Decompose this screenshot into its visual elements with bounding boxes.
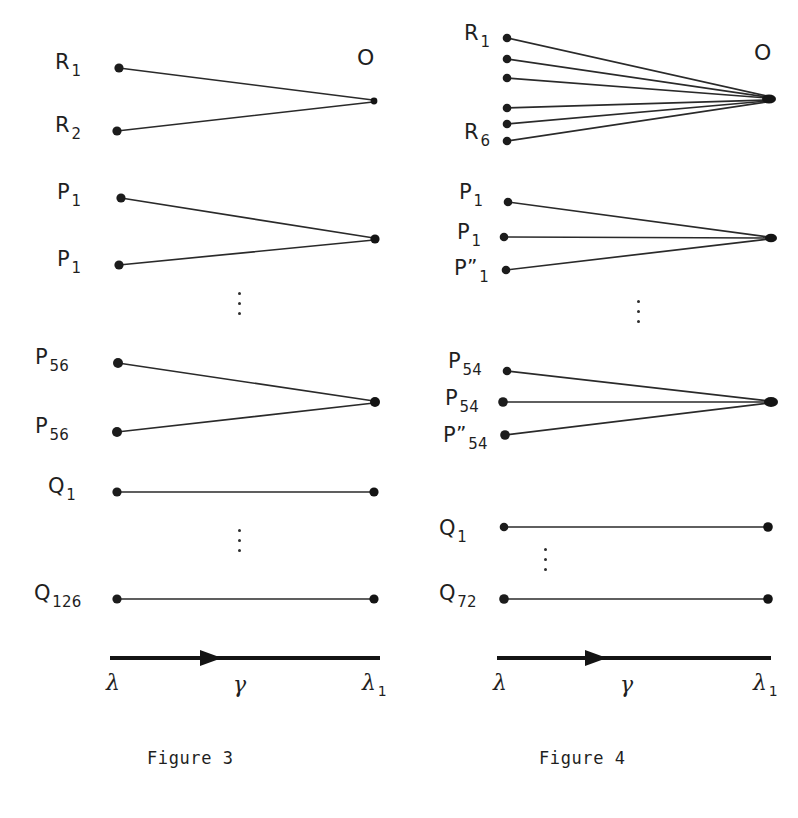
figure-3-label-p56-b: P56 — [35, 416, 67, 437]
figure-4-r-rays — [503, 34, 776, 146]
figure-3-ellipsis-p — [238, 292, 241, 315]
figure-4-axis-mid-label: γ — [620, 674, 633, 696]
figure-3-label-p1-b: P1 — [57, 249, 80, 270]
figure-4-q-lines — [499, 522, 773, 604]
figure-4-label-p1-c: P”1 — [454, 258, 487, 279]
figure-4-label-r1: R1 — [464, 23, 489, 44]
figure-3-origin-label: O — [357, 47, 375, 69]
figure-4: R1 R6 P1 P1 P”1 P54 P54 P”54 Q1 Q72 O — [399, 0, 798, 818]
figure-plate: R1 R2 P1 P1 P56 P56 Q1 Q126 O λ γ — [0, 0, 798, 818]
figure-4-axis-right-label: λ1 — [753, 672, 776, 694]
figure-3-label-r1: R1 — [55, 52, 80, 73]
figure-4-label-q72: Q72 — [439, 583, 475, 604]
figure-3-label-q126: Q126 — [34, 583, 80, 604]
figure-4-label-r6: R6 — [464, 122, 489, 143]
figure-3-r-rays — [112, 63, 377, 135]
figure-3-axis — [110, 650, 380, 666]
figure-3-p-first-rays — [114, 193, 379, 269]
figure-3: R1 R2 P1 P1 P56 P56 Q1 Q126 O λ γ — [0, 0, 399, 818]
figure-3-axis-right-label: λ1 — [362, 672, 385, 694]
figure-4-axis-left-label: λ — [493, 672, 507, 694]
figure-4-label-p1-a: P1 — [459, 182, 482, 203]
figure-3-ellipsis-q — [238, 529, 241, 552]
figure-4-ellipsis-p — [637, 300, 640, 323]
figure-3-label-r2: R2 — [55, 115, 80, 136]
figure-4-label-p54-c: P”54 — [443, 425, 486, 446]
figure-3-label-p56-a: P56 — [35, 347, 67, 368]
figure-3-caption: Figure 3 — [147, 748, 234, 768]
figure-3-label-q1: Q1 — [48, 476, 75, 497]
figure-4-p-last-rays — [498, 367, 778, 440]
figure-4-ellipsis-q — [544, 548, 547, 571]
figure-3-p-last-rays — [112, 358, 380, 437]
figure-4-p-first-rays — [500, 198, 777, 275]
figure-3-axis-left-label: λ — [106, 672, 120, 694]
figure-4-origin-label: O — [754, 42, 772, 64]
figure-4-label-q1: Q1 — [439, 518, 466, 539]
figure-3-q-lines — [112, 487, 378, 603]
figure-3-axis-mid-label: γ — [233, 674, 246, 696]
figure-4-axis — [497, 650, 771, 666]
figure-4-label-p54-b: P54 — [445, 388, 477, 409]
figure-4-label-p54-a: P54 — [448, 351, 480, 372]
figure-4-label-p1-b: P1 — [457, 222, 480, 243]
figure-3-label-p1-a: P1 — [57, 182, 80, 203]
figure-4-caption: Figure 4 — [539, 748, 626, 768]
